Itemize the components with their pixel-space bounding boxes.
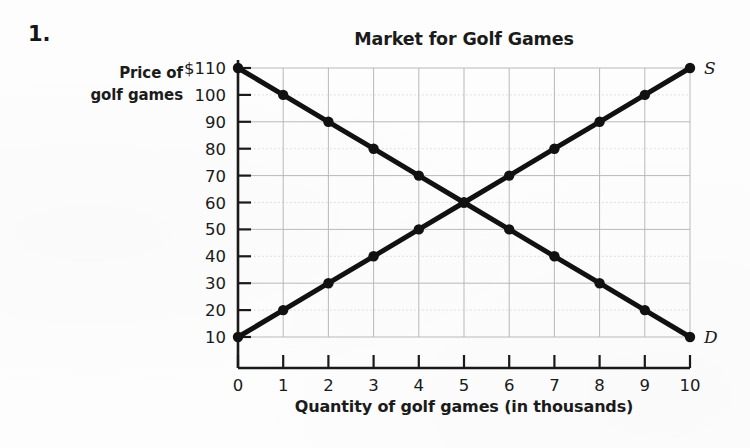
data-point-marker [323,117,333,127]
data-point-marker [459,197,469,207]
x-tick-label: 7 [549,376,560,395]
data-point-marker [594,278,604,288]
y-tick-label: 100 [195,86,227,105]
data-point-marker [640,90,650,100]
x-tick-label: 4 [414,376,425,395]
data-point-marker [368,251,378,261]
y-tick-label: 50 [205,220,226,239]
x-tick-label: 1 [278,376,289,395]
data-point-marker [549,144,559,154]
data-point-marker [414,170,424,180]
data-point-marker [278,90,288,100]
data-point-marker [368,144,378,154]
x-tick-label: 0 [233,376,244,395]
y-axis-tick-marks [238,68,251,337]
curve-end-labels: DS [703,58,718,347]
x-tick-label: 5 [459,376,470,395]
x-axis-title: Quantity of golf games (in thousands) [238,397,690,416]
data-point-marker [685,332,695,342]
data-point-marker [323,278,333,288]
y-tick-label: 20 [205,301,226,320]
x-axis-tick-marks [238,355,690,368]
curve-label-d: D [703,327,718,347]
data-point-marker [233,332,243,342]
x-tick-label: 9 [640,376,651,395]
x-tick-label: 3 [368,376,379,395]
data-point-marker [594,117,604,127]
x-tick-label: 6 [504,376,515,395]
y-tick-label: 10 [205,328,226,347]
x-axis-tick-labels: 012345678910 [233,376,701,395]
y-axis-tick-labels: $110100908070605040302010 [184,59,226,347]
x-tick-label: 8 [594,376,605,395]
data-point-marker [640,305,650,315]
curve-label-s: S [704,58,716,78]
y-tick-label: $110 [184,59,226,78]
data-point-marker [414,224,424,234]
market-supply-demand-chart: $110100908070605040302010 012345678910 D… [0,0,750,448]
data-point-marker [278,305,288,315]
y-tick-label: 60 [205,194,226,213]
data-point-marker [504,224,514,234]
data-point-marker [233,63,243,73]
data-point-marker [504,170,514,180]
data-point-marker [685,63,695,73]
x-tick-label: 10 [680,376,701,395]
y-tick-label: 70 [205,167,226,186]
y-tick-label: 40 [205,247,226,266]
y-tick-label: 90 [205,113,226,132]
y-tick-label: 30 [205,274,226,293]
x-tick-label: 2 [323,376,334,395]
y-tick-label: 80 [205,140,226,159]
data-point-marker [549,251,559,261]
